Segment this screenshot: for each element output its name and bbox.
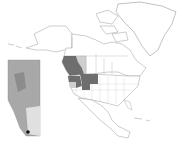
range-montana <box>80 74 98 84</box>
aleutian-islands <box>8 44 22 48</box>
mexico-outline <box>78 98 130 138</box>
range-washington <box>68 76 76 82</box>
caribbean-islands <box>134 118 150 121</box>
locality-marker <box>26 130 30 134</box>
range-map <box>0 0 183 150</box>
florida-outline <box>124 100 132 110</box>
range-wyoming-part <box>82 84 90 90</box>
alaska-outline <box>26 26 72 52</box>
alberta-inset <box>8 60 40 136</box>
range-oregon <box>69 82 76 88</box>
